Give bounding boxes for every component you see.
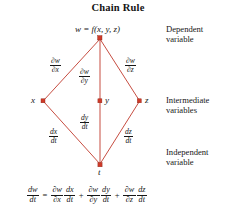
edge-label-dy-dt-numerator: dy <box>80 114 89 122</box>
equation-plus-sign-2: + <box>112 190 123 200</box>
equation-term2-ordinary-denominator: dt <box>101 195 112 205</box>
node-label-y: y <box>105 95 109 105</box>
edge-label-dz-dt-denominator: dt <box>124 136 133 145</box>
edge-label-dw-dz-numerator: ∂w <box>125 57 136 65</box>
equation-term1-ordinary-denominator: dt <box>64 195 75 205</box>
equation-term3-ordinary: dz dt <box>137 186 147 204</box>
chain-rule-equation: dw dt = ∂w ∂x dx dt + ∂w ∂y dy dt + ∂w ∂… <box>26 186 147 204</box>
edge-label-dw-dz-denominator: ∂z <box>125 65 136 74</box>
edge-label-dy-dt-denominator: dt <box>80 122 89 131</box>
annotation-dependent: Dependent variable <box>166 25 203 44</box>
equation-term2-ordinary: dy dt <box>101 186 112 204</box>
edge-label-dz-dt-numerator: dz <box>124 128 133 136</box>
node-marker-y <box>98 99 102 103</box>
equation-term1-ordinary: dx dt <box>64 186 75 204</box>
equation-term3-partial: ∂w ∂z <box>123 186 136 204</box>
edge-label-dz-dt: dz dt <box>124 128 133 145</box>
equation-term3-ordinary-numerator: dz <box>137 186 147 195</box>
equation-term1-ordinary-numerator: dx <box>64 186 75 195</box>
annotation-intermediate: Intermediate variables <box>166 96 209 115</box>
node-marker-z <box>137 99 141 103</box>
edge-label-dx-dt-numerator: dx <box>49 128 58 136</box>
edge-label-dy-dt: dy dt <box>80 114 89 131</box>
equation-term2-partial-numerator: ∂w <box>87 186 100 195</box>
equation-equals-sign: = <box>40 190 51 200</box>
edge-label-dx-dt: dx dt <box>49 128 58 145</box>
figure-canvas: Chain Rule w = f(x, y, z) x y z t ∂w ∂x … <box>0 0 236 224</box>
equation-term3-partial-numerator: ∂w <box>123 186 136 195</box>
equation-term3-partial-denominator: ∂z <box>123 195 136 205</box>
equation-term2-partial: ∂w ∂y <box>87 186 100 204</box>
node-label-t: t <box>98 167 101 177</box>
annotation-dependent-line2: variable <box>166 35 203 45</box>
node-label-w: w = f(x, y, z) <box>75 24 120 34</box>
equation-lhs-numerator: dw <box>27 186 40 195</box>
edge-label-dx-dt-denominator: dt <box>49 136 58 145</box>
node-marker-w <box>98 36 102 40</box>
edge-label-dw-dx: ∂w ∂x <box>50 57 61 74</box>
annotation-intermediate-line2: variables <box>166 106 209 116</box>
annotation-independent: Independent variable <box>166 148 208 167</box>
equation-term1-partial-denominator: ∂x <box>51 195 64 205</box>
node-label-z: z <box>145 95 149 105</box>
edge-label-dw-dx-numerator: ∂w <box>50 57 61 65</box>
equation-plus-sign-1: + <box>76 190 87 200</box>
edge-label-dw-dy: ∂w ∂y <box>79 68 90 85</box>
equation-term2-ordinary-numerator: dy <box>101 186 112 195</box>
equation-term1-partial-numerator: ∂w <box>51 186 64 195</box>
edge-label-dw-dy-numerator: ∂w <box>79 68 90 76</box>
equation-lhs-denominator: dt <box>27 195 40 205</box>
node-label-x: x <box>31 95 35 105</box>
edge-label-dw-dx-denominator: ∂x <box>50 65 61 74</box>
equation-term3-ordinary-denominator: dt <box>137 195 147 205</box>
equation-term1-partial: ∂w ∂x <box>51 186 64 204</box>
edge-label-dw-dz: ∂w ∂z <box>125 57 136 74</box>
equation-lhs: dw dt <box>27 186 40 204</box>
edge-label-dw-dy-denominator: ∂y <box>79 76 90 85</box>
annotation-independent-line2: variable <box>166 158 208 168</box>
node-marker-x <box>41 99 45 103</box>
equation-term2-partial-denominator: ∂y <box>87 195 100 205</box>
